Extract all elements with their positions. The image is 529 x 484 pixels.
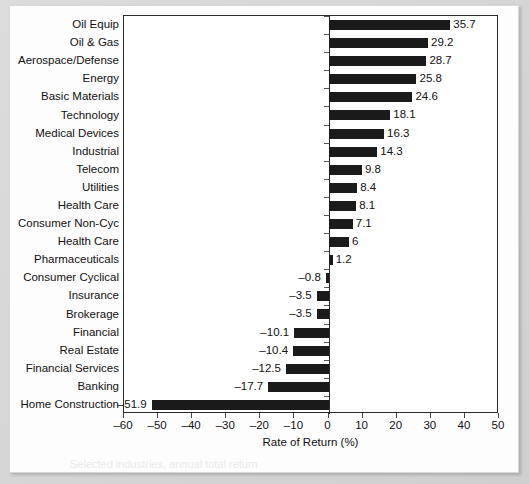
- y-axis-tick: [324, 233, 329, 234]
- bar-row: –51.9: [124, 396, 497, 414]
- bar: [329, 183, 358, 193]
- bar-row: –17.7: [124, 378, 497, 396]
- y-axis-tick: [324, 287, 329, 288]
- bar-value-label: 24.6: [415, 89, 437, 103]
- bar-value-label: 29.2: [431, 35, 453, 49]
- bar-value-label: –10.1: [260, 325, 289, 339]
- bar: [329, 147, 378, 157]
- x-axis-tick-label: 0: [324, 419, 330, 431]
- bar-value-label: –12.5: [252, 361, 281, 375]
- printed-page: Industry rates of returncomparative anal…: [9, 5, 519, 473]
- bar: [329, 201, 357, 211]
- x-axis-title: Rate of Return (%): [123, 436, 498, 448]
- x-axis-tick: [396, 413, 397, 418]
- y-axis-tick: [324, 125, 329, 126]
- x-axis-tick-label: –60: [113, 419, 132, 431]
- bar: [268, 382, 328, 392]
- category-label: Banking: [10, 379, 119, 393]
- bar-value-label: 9.8: [365, 162, 381, 176]
- category-label: Industrial: [10, 144, 119, 158]
- category-label: Brokerage: [10, 307, 119, 321]
- x-axis-tick-label: –50: [147, 419, 166, 431]
- bar: [329, 165, 362, 175]
- bar: [294, 328, 328, 338]
- category-label: Health Care: [10, 234, 119, 248]
- bar-value-label: 7.1: [356, 216, 372, 230]
- bar-chart-figure: Oil EquipOil & GasAerospace/DefenseEnerg…: [10, 6, 518, 472]
- bar-value-label: 6: [352, 234, 358, 248]
- category-label: Financial: [10, 325, 119, 339]
- category-label: Health Care: [10, 198, 119, 212]
- x-axis-tick: [430, 413, 431, 418]
- bar-row: –12.5: [124, 360, 497, 378]
- y-axis-tick: [324, 70, 329, 71]
- x-axis-tick: [362, 413, 363, 418]
- bar-row: 14.3: [124, 143, 497, 161]
- x-axis-tick: [464, 413, 465, 418]
- x-axis-tick-label: –40: [182, 419, 201, 431]
- bar-row: 7.1: [124, 215, 497, 233]
- category-label: Technology: [10, 108, 119, 122]
- y-axis-tick: [324, 34, 329, 35]
- category-label: Real Estate: [10, 343, 119, 357]
- bar-value-label: 1.2: [336, 252, 352, 266]
- bar: [329, 74, 417, 84]
- y-axis-tick: [324, 324, 329, 325]
- category-label: Financial Services: [10, 361, 119, 375]
- bar-value-label: –10.4: [259, 343, 288, 357]
- bar-value-label: 35.7: [453, 17, 475, 31]
- bar-row: 24.6: [124, 88, 497, 106]
- y-axis-tick: [324, 396, 329, 397]
- bar-value-label: –3.5: [289, 306, 311, 320]
- bar-row: –10.4: [124, 342, 497, 360]
- bar-value-label: 25.8: [420, 71, 442, 85]
- x-axis-tick-label: 50: [492, 419, 505, 431]
- plot-area: 35.729.228.725.824.618.116.314.39.88.48.…: [123, 15, 498, 413]
- x-axis-tick-label: 10: [355, 419, 368, 431]
- bar: [329, 20, 451, 30]
- category-label: Aerospace/Defense: [10, 53, 119, 67]
- category-label: Basic Materials: [10, 89, 119, 103]
- bar: [152, 400, 329, 410]
- bar-row: –3.5: [124, 305, 497, 323]
- category-label: Oil Equip: [10, 17, 119, 31]
- y-axis-tick: [324, 360, 329, 361]
- bar-row: 25.8: [124, 70, 497, 88]
- y-axis-tick: [324, 269, 329, 270]
- x-axis-tick-label: 40: [458, 419, 471, 431]
- category-label: Medical Devices: [10, 126, 119, 140]
- bar-row: –0.8: [124, 269, 497, 287]
- category-label: Home Construction: [10, 397, 119, 411]
- category-label: Telecom: [10, 162, 119, 176]
- bar-value-label: 14.3: [380, 144, 402, 158]
- category-label: Energy: [10, 71, 119, 85]
- y-axis-tick: [324, 106, 329, 107]
- bar-value-label: –0.8: [298, 270, 320, 284]
- category-label: Insurance: [10, 288, 119, 302]
- bar-row: –10.1: [124, 324, 497, 342]
- x-axis-tick: [123, 413, 124, 418]
- x-axis-tick: [259, 413, 260, 418]
- bar-value-label: 16.3: [387, 126, 409, 140]
- x-axis-tick-label: 20: [389, 419, 402, 431]
- bar: [329, 237, 349, 247]
- bar: [329, 219, 353, 229]
- category-label: Oil & Gas: [10, 35, 119, 49]
- y-axis-tick: [324, 52, 329, 53]
- bar-row: 1.2: [124, 251, 497, 269]
- x-axis-tick-label: 30: [423, 419, 436, 431]
- y-axis-tick: [324, 342, 329, 343]
- y-axis-tick: [324, 251, 329, 252]
- bar-row: 8.4: [124, 179, 497, 197]
- bar-row: 6: [124, 233, 497, 251]
- bar-value-label: 18.1: [393, 107, 415, 121]
- y-axis-tick: [324, 143, 329, 144]
- bar-row: –3.5: [124, 287, 497, 305]
- bar-row: 35.7: [124, 16, 497, 34]
- x-axis-tick-label: –30: [216, 419, 235, 431]
- y-axis-tick: [324, 378, 329, 379]
- bar-value-label: 8.4: [360, 180, 376, 194]
- bar: [329, 110, 391, 120]
- bar: [329, 255, 333, 265]
- bar: [326, 273, 329, 283]
